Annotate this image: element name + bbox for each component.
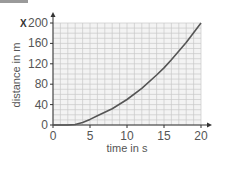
y-tick-label: 80	[35, 77, 49, 91]
x-tick-label: 10	[120, 129, 134, 143]
x-tick-label: 0	[50, 129, 57, 143]
distance-time-chart: 0510152004080120160200 time in s distanc…	[0, 0, 225, 171]
x-tick-label: 5	[87, 129, 94, 143]
x-tick-label: 15	[157, 129, 171, 143]
y-axis-label: distance in m	[10, 43, 22, 108]
y-tick-label: 160	[28, 36, 48, 50]
x-axis-label: time in s	[107, 142, 148, 154]
x-tick-label: 20	[194, 129, 208, 143]
y-tick-label: 200	[28, 16, 48, 30]
y-tick-label: 120	[28, 57, 48, 71]
corner-label: X	[20, 18, 27, 29]
grid	[53, 23, 201, 125]
y-tick-label: 40	[35, 98, 49, 112]
y-tick-label: 0	[41, 118, 48, 132]
